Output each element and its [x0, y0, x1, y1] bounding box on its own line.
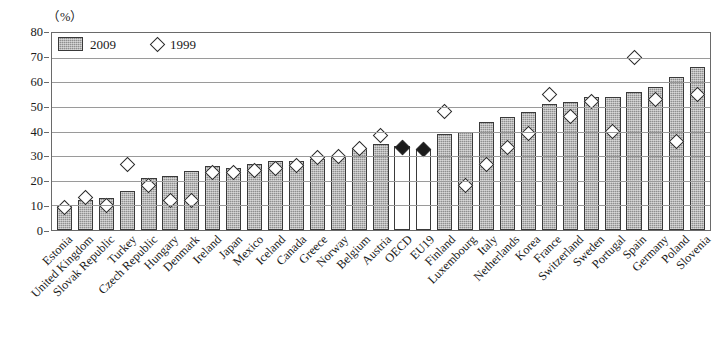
legend-bar-swatch-icon: [58, 37, 83, 51]
y-axis-tick-label: 20: [31, 175, 44, 188]
gridline: [52, 132, 710, 133]
gridline: [52, 107, 710, 108]
y-axis-tick-label: 60: [31, 76, 44, 89]
marker-diamond[interactable]: [373, 127, 389, 143]
y-axis-unit-label: （%）: [47, 6, 83, 25]
bar[interactable]: [120, 191, 135, 230]
bar[interactable]: [648, 87, 663, 230]
legend-marker-label: 1999: [170, 38, 196, 51]
y-axis-tick-mark: [44, 181, 49, 182]
y-axis-tick-mark: [44, 132, 49, 133]
y-axis-tick-label: 40: [31, 125, 44, 138]
bar[interactable]: [331, 156, 346, 230]
gridline: [52, 58, 710, 59]
y-axis-tick-label: 70: [31, 51, 44, 64]
marker-diamond[interactable]: [120, 157, 136, 173]
bar[interactable]: [605, 97, 620, 230]
bar[interactable]: [394, 146, 409, 230]
y-axis-tick-mark: [44, 156, 49, 157]
bar[interactable]: [416, 149, 431, 230]
legend-diamond-icon: [150, 36, 166, 52]
y-axis-tick-mark: [44, 107, 49, 108]
plot-area: [51, 32, 711, 231]
y-axis-tick-mark: [44, 57, 49, 58]
y-axis-tick-label: 80: [31, 26, 44, 39]
chart-legend: 2009 1999: [58, 37, 196, 51]
gridline: [52, 156, 710, 157]
y-axis-tick-mark: [44, 231, 49, 232]
legend-bar-label: 2009: [90, 38, 116, 51]
y-axis-tick-label: 30: [31, 150, 44, 163]
x-axis-labels: EstoniaUnited KingdomSlovak RepublicTurk…: [51, 233, 711, 354]
y-axis-tick-label: 10: [31, 200, 44, 213]
bar[interactable]: [437, 134, 452, 230]
bar[interactable]: [542, 104, 557, 230]
bar[interactable]: [310, 159, 325, 230]
gridline: [52, 82, 710, 83]
bar[interactable]: [584, 97, 599, 230]
marker-diamond[interactable]: [542, 87, 558, 103]
chart-container: （%） 01020304050607080 2009 1999 EstoniaU…: [0, 0, 718, 354]
bar[interactable]: [479, 122, 494, 230]
y-axis-tick-label: 0: [37, 225, 43, 238]
bar[interactable]: [626, 92, 641, 230]
bar[interactable]: [352, 149, 367, 230]
y-axis-tick-mark: [44, 82, 49, 83]
y-axis-tick-mark: [44, 206, 49, 207]
gridline: [52, 205, 710, 206]
y-axis-tick-label: 50: [31, 100, 44, 113]
y-axis: 01020304050607080: [0, 32, 49, 231]
y-axis-tick-mark: [44, 32, 49, 33]
bar[interactable]: [669, 77, 684, 230]
gridline: [52, 181, 710, 182]
bar[interactable]: [500, 117, 515, 230]
